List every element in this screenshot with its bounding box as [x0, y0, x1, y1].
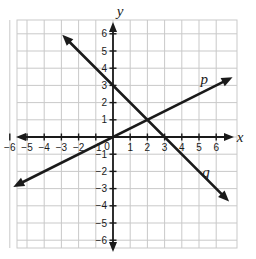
line-q-segment	[67, 39, 224, 196]
x-tick-label: −4	[38, 142, 50, 153]
y-tick-label: 4	[101, 63, 107, 74]
y-tick-label: 5	[101, 46, 107, 57]
y-tick-label: −6	[96, 235, 108, 246]
x-axis-tick-labels: −6−5−4−3−2−1123456	[4, 142, 219, 153]
y-tick-label: −3	[96, 183, 108, 194]
line-p-label: p	[199, 71, 208, 87]
coordinate-plane-figure: x y p q −6−5−4−3−2−1123456 654321−1−2−3−…	[0, 0, 256, 259]
x-tick-label: −5	[21, 142, 33, 153]
x-tick-label: 6	[213, 142, 219, 153]
x-axis-label: x	[236, 129, 244, 145]
line-q-label: q	[202, 164, 210, 180]
x-tick-label: 4	[179, 142, 185, 153]
x-tick-label: 3	[162, 142, 168, 153]
graph-canvas: x y p q −6−5−4−3−2−1123456 654321−1−2−3−…	[0, 0, 256, 259]
y-axis-arrow-up-icon	[109, 22, 117, 32]
y-tick-label: 2	[101, 97, 107, 108]
x-tick-label: −2	[73, 142, 85, 153]
x-tick-label: −6	[4, 142, 16, 153]
y-tick-label: −2	[96, 166, 108, 177]
axes	[16, 22, 234, 252]
origin-label: 0	[104, 141, 110, 152]
y-tick-label: 6	[101, 28, 107, 39]
x-tick-label: 2	[145, 142, 151, 153]
y-axis-arrow-down-icon	[109, 242, 117, 252]
x-tick-label: 5	[196, 142, 202, 153]
y-tick-label: 3	[101, 80, 107, 91]
grid-frame	[17, 20, 237, 248]
x-tick-label: −3	[56, 142, 68, 153]
y-tick-label: −5	[96, 218, 108, 229]
y-axis-label: y	[115, 3, 124, 19]
x-axis-arrow-right-icon	[224, 133, 234, 141]
x-tick-label: 1	[127, 142, 133, 153]
y-tick-label: −4	[96, 200, 108, 211]
y-tick-label: 1	[101, 114, 107, 125]
